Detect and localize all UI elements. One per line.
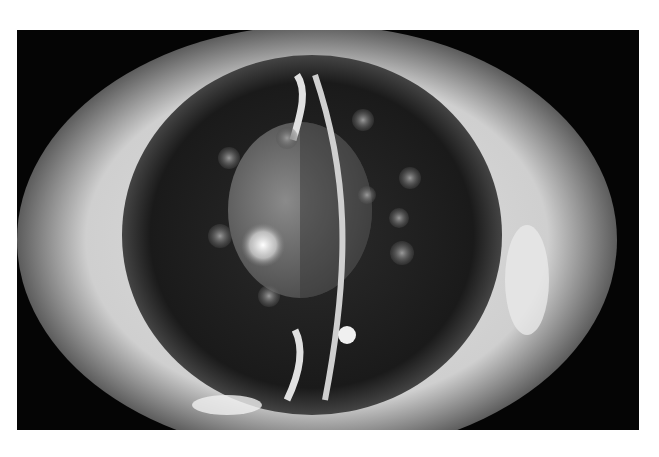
light-reflex: [241, 223, 285, 267]
eye-illustration: [17, 30, 639, 430]
eye-photograph: [17, 30, 639, 430]
